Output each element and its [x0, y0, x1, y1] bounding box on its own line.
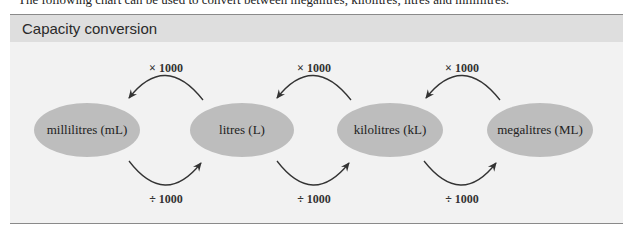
- multiply-label: × 1000: [445, 61, 479, 75]
- conversion-diagram: millilitres (mL) litres (L) kilolitres (…: [0, 0, 633, 233]
- unit-node-megalitres: megalitres (ML): [487, 103, 593, 157]
- multiply-arrow-ml-to-kl: × 1000: [426, 61, 500, 100]
- divide-label: ÷ 1000: [445, 192, 479, 206]
- curved-arrow-left-icon: [277, 75, 351, 100]
- divide-arrow-l-to-kl: ÷ 1000: [277, 161, 349, 206]
- divide-label: ÷ 1000: [297, 192, 331, 206]
- unit-label: megalitres (ML): [497, 122, 583, 137]
- multiply-arrow-kl-to-l: × 1000: [277, 61, 351, 100]
- unit-node-kilolitres: kilolitres (kL): [337, 103, 443, 157]
- curved-arrow-left-icon: [129, 75, 203, 100]
- curved-arrow-right-icon: [129, 161, 201, 185]
- multiply-arrow-l-to-ml: × 1000: [129, 61, 203, 100]
- multiply-label: × 1000: [297, 61, 331, 75]
- curved-arrow-right-icon: [277, 161, 349, 185]
- multiply-label: × 1000: [149, 61, 183, 75]
- unit-label: kilolitres (kL): [354, 122, 427, 137]
- curved-arrow-right-icon: [424, 161, 496, 185]
- unit-label: litres (L): [219, 122, 265, 137]
- divide-label: ÷ 1000: [149, 192, 183, 206]
- curved-arrow-left-icon: [426, 75, 500, 100]
- unit-node-litres: litres (L): [190, 103, 294, 157]
- unit-node-millilitres: millilitres (mL): [34, 103, 140, 157]
- divide-arrow-kl-to-ml: ÷ 1000: [424, 161, 496, 206]
- divide-arrow-ml-to-l: ÷ 1000: [129, 161, 201, 206]
- unit-label: millilitres (mL): [47, 122, 128, 137]
